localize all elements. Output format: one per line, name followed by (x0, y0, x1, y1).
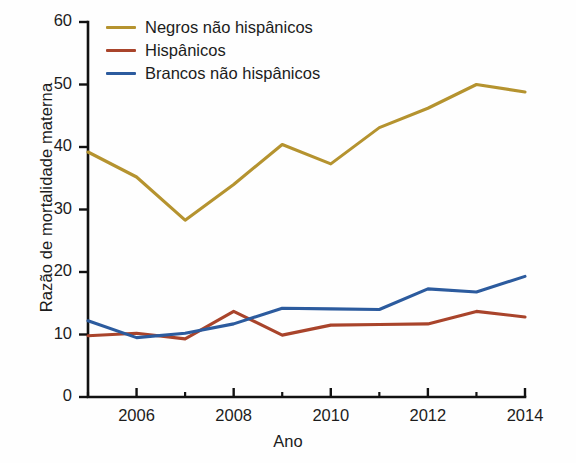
plot-area (0, 0, 576, 463)
maternal-mortality-line-chart: Razão de mortalidade materna Ano 0102030… (0, 0, 576, 463)
axis-spines (88, 22, 525, 397)
series-line-negros-nao-hispanicos (88, 85, 525, 221)
axis-ticks (79, 22, 525, 397)
series-lines (88, 85, 525, 339)
series-line-brancos-nao-hispanicos (88, 276, 525, 337)
